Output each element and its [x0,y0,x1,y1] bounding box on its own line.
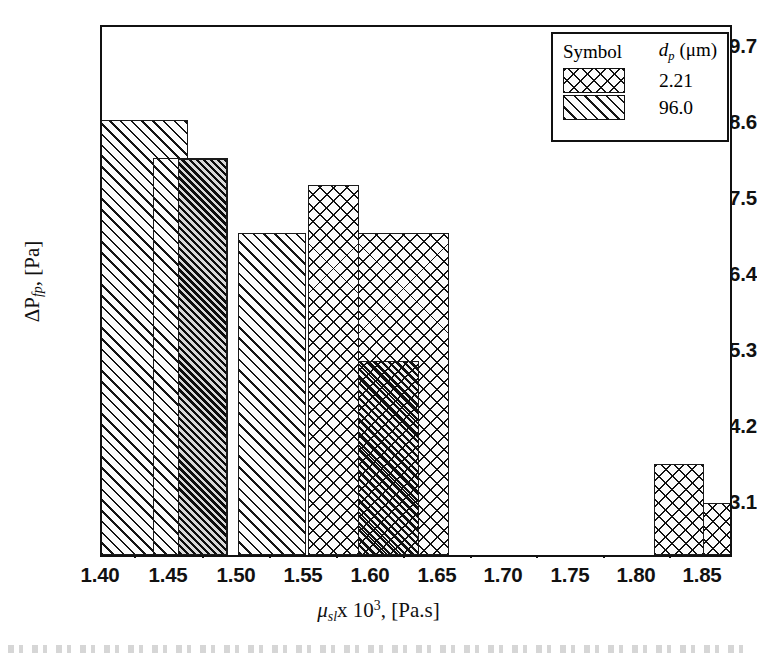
bar-221um-1 [308,185,359,555]
x-axis-title-sup: 3 [374,598,381,613]
y-axis-title-sub: fp [30,286,45,297]
x-axis-title-mu: μ [317,598,328,622]
y-axis-title-delta: ΔP [20,297,44,322]
legend-swatch-diagonalhatch-icon [563,95,625,120]
legend-swatch-crosshatch-icon [563,68,625,93]
legend-value-96: 96.0 [635,98,717,118]
figure-container: 29.7 28.6 27.5 26.4 25.3 24.2 23.1 ΔPfp,… [0,0,757,657]
bar-96um-4-overlay-grid [358,361,419,555]
legend-value-221: 2.21 [635,71,717,91]
y-axis-title-rest: , [Pa] [20,241,44,287]
bar-221um-3 [654,464,704,555]
bar-96um-3 [238,233,306,555]
legend-header-units: (μm) [675,39,717,60]
plot-area: Symbol dp (μm) 2.21 96.0 [100,25,732,557]
y-axis-title: ΔPfp, [Pa] [20,186,47,376]
x-tick-label: 1.85 [662,565,742,586]
legend-header-symbol: Symbol [563,42,622,63]
x-axis-title: μslx 103, [Pa.s] [0,598,757,625]
x-axis-title-sub: sl [328,609,337,624]
legend-header: Symbol dp (μm) [561,39,719,66]
x-axis-title-mid: x 10 [337,598,374,622]
bar-221um-4 [703,503,732,555]
page-caption-smudge [8,645,748,653]
legend-row-221: 2.21 [561,68,719,93]
x-axis-title-rest: , [Pa.s] [381,598,440,622]
bar-96um-2-overlap [178,159,227,555]
legend-header-value: dp (μm) [659,40,717,63]
legend-row-96: 96.0 [561,95,719,120]
legend: Symbol dp (μm) 2.21 96.0 [551,32,729,142]
legend-header-d: d [659,39,669,60]
